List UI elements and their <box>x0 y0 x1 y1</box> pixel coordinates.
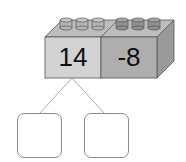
studs-right <box>116 18 160 30</box>
connector-line-left <box>40 78 72 113</box>
brick-left-value: 14 <box>45 37 101 78</box>
answer-box-left[interactable] <box>17 113 62 158</box>
brick-right-value: -8 <box>101 37 157 78</box>
connector-line-right <box>72 78 104 113</box>
studs-left <box>60 18 104 30</box>
answer-box-right[interactable] <box>84 113 129 158</box>
